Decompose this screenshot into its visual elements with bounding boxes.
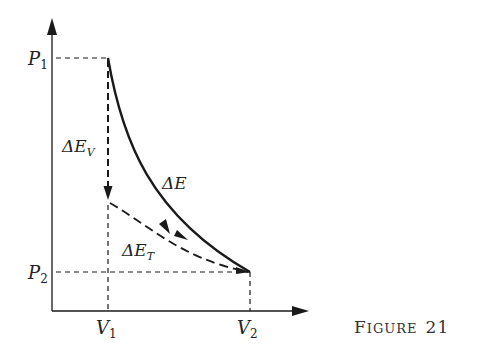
v1-label: V1 bbox=[96, 317, 117, 341]
v2-label: V2 bbox=[237, 317, 258, 341]
p1-label: P1 bbox=[27, 48, 48, 72]
x-axis bbox=[52, 306, 309, 316]
y-axis-arrow-icon bbox=[47, 18, 57, 35]
y-axis bbox=[47, 18, 57, 311]
figure-caption: FIGURE21 bbox=[354, 317, 449, 337]
delta-ev-label: ΔEV bbox=[61, 136, 96, 159]
arrow-icon bbox=[174, 230, 188, 240]
arrow-icon bbox=[159, 219, 170, 234]
x-axis-arrow-icon bbox=[292, 306, 309, 316]
delta-ev-path bbox=[104, 60, 113, 200]
delta-et-curve bbox=[110, 203, 250, 274]
delta-e-label: ΔE bbox=[161, 173, 187, 193]
delta-et-label: ΔET bbox=[121, 240, 156, 263]
pv-diagram: P1 P2 V1 V2 ΔEV ΔE ΔET FIGURE21 bbox=[0, 0, 481, 354]
p2-label: P2 bbox=[27, 262, 48, 286]
arrow-down-icon bbox=[104, 186, 113, 200]
